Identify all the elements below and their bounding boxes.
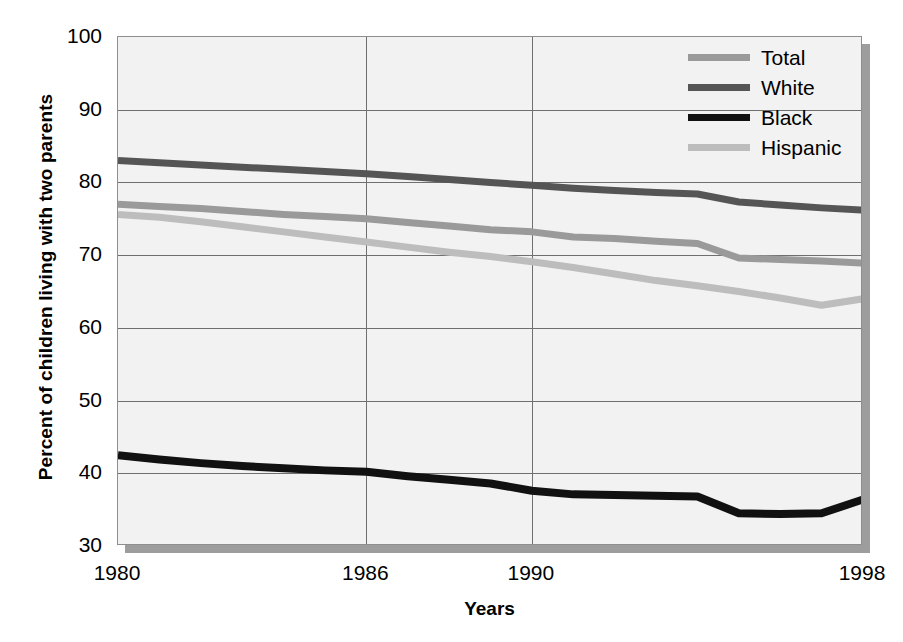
x-tick-label: 1990 [471,562,591,583]
y-tick-label: 80 [40,170,102,191]
y-tick-label: 70 [40,243,102,264]
legend-item-white[interactable]: White [688,74,842,100]
legend-swatch-icon [688,144,750,151]
series-line-white [118,161,862,210]
legend-swatch-icon [688,54,750,61]
y-tick-label: 40 [40,461,102,482]
y-tick-label: 90 [40,98,102,119]
chart-legend: TotalWhiteBlackHispanic [688,44,842,160]
legend-swatch-icon [688,84,750,91]
x-axis-title: Years [117,598,862,620]
legend-item-hispanic[interactable]: Hispanic [688,134,842,160]
series-line-black [118,455,862,514]
x-tick-label: 1998 [802,562,903,583]
legend-label: White [761,77,815,98]
legend-label: Hispanic [761,137,842,158]
chart-figure: Percent of children living with two pare… [0,0,903,642]
x-tick-label: 1980 [57,562,177,583]
y-tick-label: 100 [40,25,102,46]
y-tick-label: 50 [40,389,102,410]
y-tick-label: 30 [40,534,102,555]
legend-label: Total [761,47,805,68]
y-tick-label: 60 [40,316,102,337]
legend-item-total[interactable]: Total [688,44,842,70]
legend-label: Black [761,107,812,128]
legend-item-black[interactable]: Black [688,104,842,130]
x-tick-label: 1986 [305,562,425,583]
legend-swatch-icon [688,114,750,121]
